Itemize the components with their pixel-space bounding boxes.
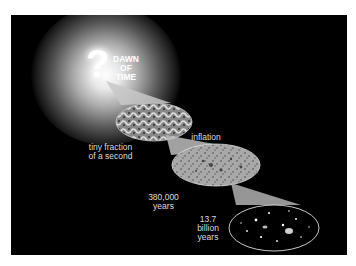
cosmic-microwave-background-ellipse <box>172 144 260 186</box>
label-inflation: inflation <box>181 133 231 142</box>
label-13-7-billion-years: 13.7 billion years <box>188 215 228 242</box>
zoom-cone-3 <box>231 183 301 205</box>
dawn-of-time-diagram: ? DAWN OF TIME tiny fraction of a second… <box>11 15 347 255</box>
galaxies-ellipse <box>229 205 319 251</box>
label-380000-years: 380,000 years <box>141 193 186 211</box>
zoom-cone-1 <box>106 81 171 105</box>
dawn-of-time-title: DAWN OF TIME <box>106 55 146 82</box>
label-tiny-fraction: tiny fraction of a second <box>73 143 148 161</box>
diagram-graphics <box>11 15 347 255</box>
